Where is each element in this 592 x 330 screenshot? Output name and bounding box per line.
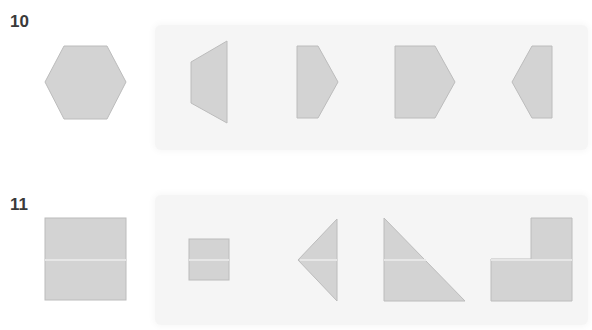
hexagon-target-shape — [45, 46, 126, 119]
shapes-canvas — [0, 0, 592, 330]
option-trapezoid-shape[interactable] — [191, 41, 227, 123]
option-pentagon-right-small-shape[interactable] — [297, 46, 338, 118]
option-pentagon-right-large-shape[interactable] — [395, 46, 455, 118]
option-pentagon-left-small-shape[interactable] — [512, 46, 552, 118]
